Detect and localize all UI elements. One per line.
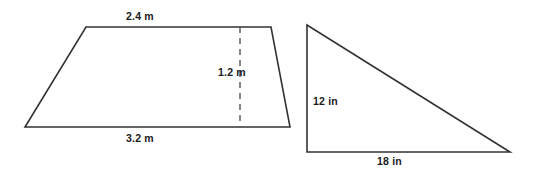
triangle-vertical-leg-label: 12 in: [313, 96, 338, 107]
right-triangle-shape: [307, 25, 510, 152]
trapezoid-shape: [25, 27, 290, 127]
triangle-horizontal-leg-label: 18 in: [377, 156, 402, 167]
trapezoid-height-label: 1.2 m: [218, 67, 246, 78]
trapezoid-bottom-base-label: 3.2 m: [126, 133, 154, 144]
geometry-figure-canvas: 2.4 m 1.2 m 3.2 m 12 in 18 in: [0, 0, 544, 173]
geometry-shapes-svg: [0, 0, 544, 173]
trapezoid-top-base-label: 2.4 m: [126, 11, 154, 22]
